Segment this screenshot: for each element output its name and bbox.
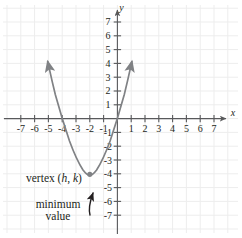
y-tick-label: -5	[104, 182, 112, 193]
y-tick-label: 5	[106, 44, 111, 55]
x-tick-label: 3	[156, 123, 161, 134]
x-tick-label: 7	[212, 123, 217, 134]
y-tick-label: 1	[106, 99, 111, 110]
y-tick-label: -4	[104, 168, 112, 179]
x-tick-label: -5	[44, 123, 52, 134]
graph-figure: -7 -6 -5 -4 -3 -2 -1 1 2 3 4 5 6 7 7 6 5…	[0, 0, 242, 238]
vertex-point-marker	[87, 172, 92, 177]
x-tick-label: 6	[198, 123, 203, 134]
x-tick-label: 4	[170, 123, 175, 134]
minimum-value-annotation-label: minimum value	[27, 198, 89, 222]
x-tick-label: 5	[184, 123, 189, 134]
y-tick-label: 4	[106, 58, 111, 69]
x-tick-label: 1	[129, 123, 134, 134]
x-tick-label: -6	[30, 123, 38, 134]
x-tick-label: -3	[72, 123, 80, 134]
y-axis-label: y	[118, 2, 124, 13]
x-axis-label: x	[230, 107, 236, 118]
y-tick-label: -3	[104, 155, 112, 166]
minimum-label-line2: value	[27, 210, 89, 222]
parabola-left-arrow	[48, 61, 50, 70]
x-tick-label: -7	[17, 123, 25, 134]
y-tick-label: -7	[104, 210, 112, 221]
x-tick-label: 2	[143, 123, 148, 134]
vertex-label-prefix: vertex (	[26, 172, 61, 184]
minimum-label-line1: minimum	[27, 198, 89, 210]
y-tick-label: 6	[106, 30, 111, 41]
x-tick-label: -2	[86, 123, 94, 134]
vertex-annotation-label: vertex (h, k)	[26, 172, 82, 184]
y-tick-label: -6	[104, 196, 112, 207]
y-tick-label: 2	[106, 85, 111, 96]
vertex-label-suffix: )	[78, 172, 82, 184]
y-tick-label: 3	[106, 72, 111, 83]
y-tick-label: -1	[104, 127, 112, 138]
y-tick-label: 7	[106, 16, 111, 27]
